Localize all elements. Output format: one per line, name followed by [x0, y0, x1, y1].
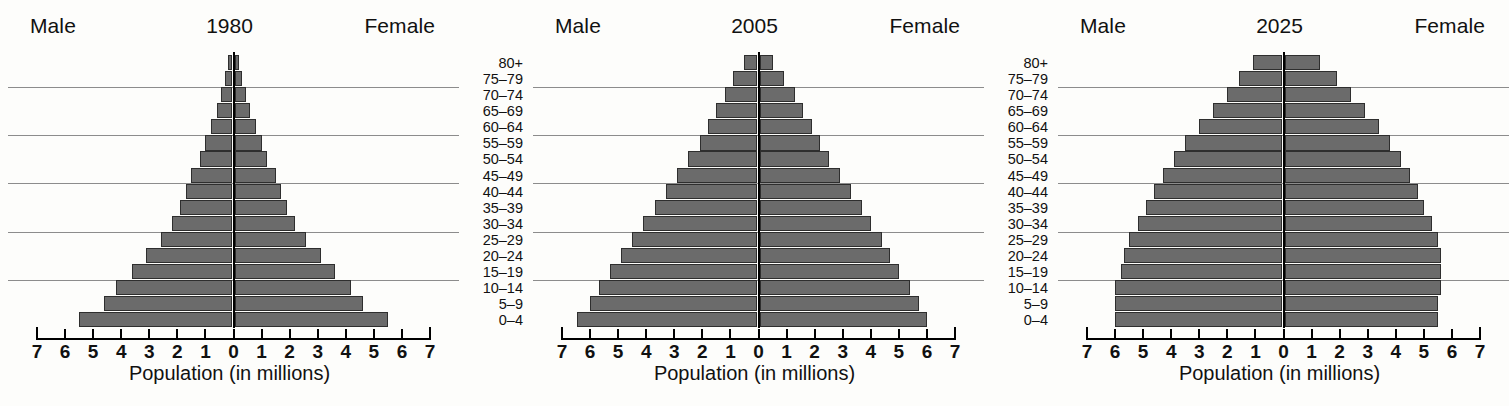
bar-male	[1146, 200, 1282, 215]
age-group-label: 35–39	[451, 200, 523, 216]
pyramid-panel-2025: Male 2025 Female 765432101234567 Populat…	[1058, 0, 1501, 406]
x-axis-tick-label: 5	[369, 341, 380, 363]
age-group-list: 80+75–7970–7465–6960–6455–5950–5445–4940…	[451, 55, 523, 328]
x-axis-tick	[673, 329, 675, 340]
age-group-label: 0–4	[451, 312, 523, 328]
bar-female	[760, 280, 910, 295]
x-axis-tick-label: 5	[894, 341, 905, 363]
bar-female	[1285, 135, 1390, 150]
bar-female	[235, 119, 256, 134]
age-group-label: 35–39	[976, 200, 1048, 216]
bar-male	[217, 103, 232, 118]
x-axis-tick-label: 6	[585, 341, 596, 363]
bar-male	[225, 71, 232, 86]
x-axis-labels-2005: 765432101234567	[562, 341, 955, 363]
x-axis-tick	[1198, 329, 1200, 340]
bar-male	[688, 151, 757, 166]
center-axis-line	[233, 52, 235, 328]
x-axis-tick-label: 1	[256, 341, 267, 363]
x-axis-tick	[1451, 329, 1453, 340]
bar-female	[760, 184, 851, 199]
bar-female	[760, 264, 899, 279]
x-axis-tick-label: 3	[669, 341, 680, 363]
bar-male	[632, 232, 757, 247]
age-group-label: 55–59	[451, 135, 523, 151]
x-axis-tick-label: 0	[1278, 341, 1289, 363]
x-axis-tick-label: 6	[1447, 341, 1458, 363]
x-axis-tick	[1367, 329, 1369, 340]
x-axis-tick-label: 3	[1194, 341, 1205, 363]
age-group-label: 75–79	[451, 71, 523, 87]
bar-male	[716, 103, 757, 118]
bar-female	[235, 216, 295, 231]
x-axis-tick-label: 6	[1110, 341, 1121, 363]
bar-female	[760, 232, 882, 247]
bar-male	[1154, 184, 1282, 199]
x-axis-tick	[1142, 329, 1144, 340]
x-axis-tick	[1226, 329, 1228, 340]
x-axis-tick-label: 1	[725, 341, 736, 363]
age-group-label: 50–54	[976, 151, 1048, 167]
bar-female	[1285, 296, 1438, 311]
x-axis-tick	[1339, 329, 1341, 340]
bar-female	[235, 151, 267, 166]
bar-female	[1285, 55, 1320, 70]
bar-female	[235, 280, 351, 295]
x-axis-tick-label: 5	[1138, 341, 1149, 363]
bar-male	[1115, 312, 1282, 327]
x-axis-tick	[842, 329, 844, 340]
age-group-label: 0–4	[976, 312, 1048, 328]
x-axis-tick-label: 2	[809, 341, 820, 363]
x-axis-2025	[1087, 328, 1480, 340]
x-axis-tick	[1170, 329, 1172, 340]
bar-male	[599, 280, 758, 295]
x-axis-tick	[1395, 329, 1397, 340]
bar-female	[760, 103, 803, 118]
x-axis-tick-label: 4	[116, 341, 127, 363]
bar-female	[1285, 103, 1365, 118]
x-axis-tick	[36, 327, 38, 340]
x-axis-tick	[645, 329, 647, 340]
x-axis-tick-label: 6	[397, 341, 408, 363]
bar-female	[235, 71, 242, 86]
bar-male	[610, 264, 757, 279]
bar-male	[116, 280, 232, 295]
bar-male	[1121, 264, 1282, 279]
bar-female	[760, 151, 829, 166]
x-axis-1980	[37, 328, 430, 340]
female-side-label: Female	[364, 14, 435, 38]
bar-male	[132, 264, 232, 279]
bar-male	[666, 184, 757, 199]
bar-female	[235, 87, 246, 102]
x-axis-tick-label: 3	[312, 341, 323, 363]
bar-female	[1285, 71, 1337, 86]
x-axis-tick-label: 5	[1419, 341, 1430, 363]
age-group-label: 20–24	[451, 248, 523, 264]
bar-female	[1285, 87, 1351, 102]
bar-male	[186, 184, 232, 199]
bar-male	[1129, 232, 1282, 247]
x-axis-tick	[1423, 329, 1425, 340]
bar-male	[733, 71, 757, 86]
x-axis-tick-label: 7	[32, 341, 43, 363]
x-axis-tick-label: 3	[144, 341, 155, 363]
age-group-label: 70–74	[451, 87, 523, 103]
age-group-label: 10–14	[976, 280, 1048, 296]
x-axis-title-1980: Population (in millions)	[8, 362, 451, 385]
bar-female	[235, 200, 287, 215]
x-axis-tick-label: 4	[1390, 341, 1401, 363]
x-axis-tick	[289, 329, 291, 340]
x-axis-tick	[926, 329, 928, 340]
x-axis-tick-label: 2	[697, 341, 708, 363]
x-axis-tick-label: 4	[865, 341, 876, 363]
center-axis-line	[1283, 52, 1285, 328]
bar-male	[643, 216, 757, 231]
age-group-label: 70–74	[976, 87, 1048, 103]
x-axis-tick-label: 3	[1362, 341, 1373, 363]
x-axis-tick	[64, 329, 66, 340]
x-axis-tick	[729, 329, 731, 340]
panel-header: Male 2025 Female	[1058, 14, 1501, 42]
x-axis-tick-label: 5	[88, 341, 99, 363]
pyramid-panel-1980: Male 1980 Female 765432101234567 Populat…	[8, 0, 451, 406]
